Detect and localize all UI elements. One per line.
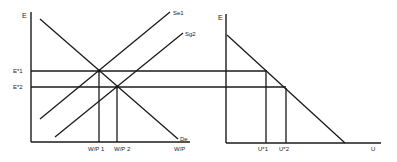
labor-market-diagram: E W/P De Se1 Sg2 E*1 E*2 W/P 1 W/P 2 E U…	[0, 0, 397, 162]
left-x-axis-label: W/P	[174, 146, 185, 152]
supply-curve-2-label: Sg2	[185, 31, 196, 37]
demand-curve-label: De	[180, 136, 188, 142]
left-y-axis-label: E	[22, 12, 27, 19]
u2-label: U*2	[279, 146, 290, 152]
wp2-label: W/P 2	[114, 146, 131, 152]
right-panel: E U U*1 U*2	[218, 14, 381, 152]
demand-curve	[40, 19, 178, 139]
left-panel: E W/P De Se1 Sg2 E*1 E*2 W/P 1 W/P 2	[13, 10, 196, 152]
supply-curve-1	[40, 12, 170, 119]
supply-curve-1-label: Se1	[173, 10, 184, 16]
right-x-axis-label: U	[371, 146, 375, 152]
wp1-label: W/P 1	[88, 146, 105, 152]
right-y-axis-label: E	[218, 14, 223, 21]
e-star-1-label: E*1	[13, 68, 23, 74]
u1-label: U*1	[258, 146, 269, 152]
e-star-2-label: E*2	[13, 84, 23, 90]
